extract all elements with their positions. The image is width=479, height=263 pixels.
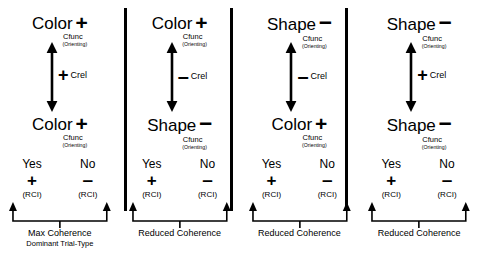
crel-text: Crel xyxy=(70,70,87,80)
top-cue-sign: – xyxy=(319,8,332,34)
top-cue-node: Color+ Cfunc (Orienting) xyxy=(120,11,240,47)
bottom-cue-dimension: Color xyxy=(271,115,312,134)
bottom-cue-sign: + xyxy=(315,112,327,135)
top-cue-text: Shape– xyxy=(267,11,332,34)
response-yes: Yes + (RCI) xyxy=(10,158,54,199)
response-yes-label: Yes xyxy=(250,158,294,170)
response-no-sign: – xyxy=(186,170,230,189)
bottom-cue-subscript-orienting: (Orienting) xyxy=(359,145,479,150)
crel-text: Crel xyxy=(191,71,208,81)
response-row: Yes + (RCI) No – (RCI) xyxy=(0,158,120,199)
caption-line-1: Reduced Coherence xyxy=(359,228,479,239)
bottom-cue-node: Color+ Cfunc (Orienting) xyxy=(240,112,360,148)
top-cue-sign: + xyxy=(76,11,88,34)
panel-caption: Max Coherence Dominant Trial-Type xyxy=(0,228,120,249)
response-no: No – (RCI) xyxy=(66,158,110,199)
top-cue-subscript-orienting: (Orienting) xyxy=(120,42,240,47)
response-no: No – (RCI) xyxy=(186,158,230,199)
bottom-cue-text: Color+ xyxy=(271,112,327,133)
bottom-cue-node: Color+ Cfunc (Orienting) xyxy=(0,112,120,148)
response-yes: Yes + (RCI) xyxy=(250,158,294,199)
bottom-cue-sign: – xyxy=(439,109,452,135)
crel-label: –Crel xyxy=(297,66,327,86)
crel-sign: + xyxy=(58,65,69,85)
response-yes-sub: (RCI) xyxy=(130,191,174,199)
bottom-cue-node: Shape– Cfunc (Orienting) xyxy=(120,112,240,150)
top-cue-subscript-orienting: (Orienting) xyxy=(359,44,479,49)
response-yes-label: Yes xyxy=(130,158,174,170)
top-cue-subscript-cfunc: Cfunc xyxy=(359,35,479,43)
crel-text: Crel xyxy=(311,71,328,81)
top-cue-subscript-orienting: (Orienting) xyxy=(0,42,120,47)
response-yes-sign: + xyxy=(250,172,294,189)
response-yes-label: Yes xyxy=(369,158,413,170)
coherence-bracket-icon xyxy=(0,202,120,228)
bottom-cue-subscript-cfunc: Cfunc xyxy=(240,134,360,142)
crel-sign: – xyxy=(297,65,308,87)
crel-label: +Crel xyxy=(417,66,446,84)
response-yes-sub: (RCI) xyxy=(10,191,54,199)
bottom-cue-dimension: Color xyxy=(32,115,73,134)
response-yes-sign: + xyxy=(130,172,174,189)
bottom-cue-subscript-orienting: (Orienting) xyxy=(240,143,360,148)
top-cue-dimension: Color xyxy=(152,14,193,33)
top-cue-text: Shape– xyxy=(387,11,452,34)
crel-label: –Crel xyxy=(178,66,208,86)
response-no: No – (RCI) xyxy=(425,158,469,199)
crel-sign: + xyxy=(417,65,428,85)
top-cue-subscript-cfunc: Cfunc xyxy=(0,33,120,41)
top-cue-subscript-orienting: (Orienting) xyxy=(240,44,360,49)
caption-line-1: Reduced Coherence xyxy=(120,228,240,239)
bottom-cue-sign: + xyxy=(76,112,88,135)
top-cue-subscript-cfunc: Cfunc xyxy=(240,35,360,43)
bottom-cue-node: Shape– Cfunc (Orienting) xyxy=(359,112,479,150)
top-cue-sign: – xyxy=(439,8,452,34)
bottom-cue-subscript-orienting: (Orienting) xyxy=(120,145,240,150)
bottom-cue-text: Shape– xyxy=(387,112,452,135)
response-no-sub: (RCI) xyxy=(66,191,110,199)
crel-sign: – xyxy=(178,65,189,87)
panel-divider-1 xyxy=(124,8,127,211)
coherence-bracket-icon xyxy=(240,202,360,228)
top-cue-dimension: Shape xyxy=(267,15,316,34)
bottom-cue-text: Shape– xyxy=(147,112,212,135)
panel-caption: Reduced Coherence xyxy=(359,228,479,239)
response-yes-label: Yes xyxy=(10,158,54,170)
response-no-sub: (RCI) xyxy=(305,191,349,199)
response-no: No – (RCI) xyxy=(305,158,349,199)
bottom-cue-subscript-cfunc: Cfunc xyxy=(0,134,120,142)
trial-type-panel-3: Shape– Cfunc (Orienting) –Crel Color+ xyxy=(240,0,360,263)
response-row: Yes + (RCI) No – (RCI) xyxy=(359,158,479,199)
trial-type-panel-4: Shape– Cfunc (Orienting) +Crel Shape– xyxy=(359,0,479,263)
crel-text: Crel xyxy=(430,70,447,80)
top-cue-text: Color+ xyxy=(152,11,208,32)
response-row: Yes + (RCI) No – (RCI) xyxy=(120,158,240,199)
caption-line-1: Max Coherence xyxy=(0,228,120,239)
panel-divider-2 xyxy=(230,8,233,211)
coherence-bracket-icon xyxy=(120,202,240,228)
bottom-cue-text: Color+ xyxy=(32,112,88,133)
response-no-sub: (RCI) xyxy=(425,191,469,199)
response-no-sign: – xyxy=(66,170,110,189)
top-cue-node: Shape– Cfunc (Orienting) xyxy=(359,11,479,49)
bottom-cue-subscript-orienting: (Orienting) xyxy=(0,143,120,148)
bottom-cue-sign: – xyxy=(199,109,212,135)
bottom-cue-dimension: Shape xyxy=(147,116,196,135)
top-cue-dimension: Shape xyxy=(387,15,436,34)
top-cue-subscript-cfunc: Cfunc xyxy=(120,33,240,41)
top-cue-node: Color+ Cfunc (Orienting) xyxy=(0,11,120,47)
crel-label: +Crel xyxy=(58,66,87,84)
response-yes-sign: + xyxy=(10,172,54,189)
top-cue-dimension: Color xyxy=(32,14,73,33)
response-yes: Yes + (RCI) xyxy=(130,158,174,199)
response-yes-sign: + xyxy=(369,172,413,189)
panel-container: Color+ Cfunc (Orienting) +Crel Color+ xyxy=(0,0,479,263)
response-yes: Yes + (RCI) xyxy=(369,158,413,199)
bottom-cue-dimension: Shape xyxy=(387,116,436,135)
response-no-sign: – xyxy=(425,170,469,189)
response-no-sub: (RCI) xyxy=(186,191,230,199)
response-yes-sub: (RCI) xyxy=(369,191,413,199)
response-row: Yes + (RCI) No – (RCI) xyxy=(240,158,360,199)
caption-line-2: Dominant Trial-Type xyxy=(0,239,120,248)
top-cue-text: Color+ xyxy=(32,11,88,32)
